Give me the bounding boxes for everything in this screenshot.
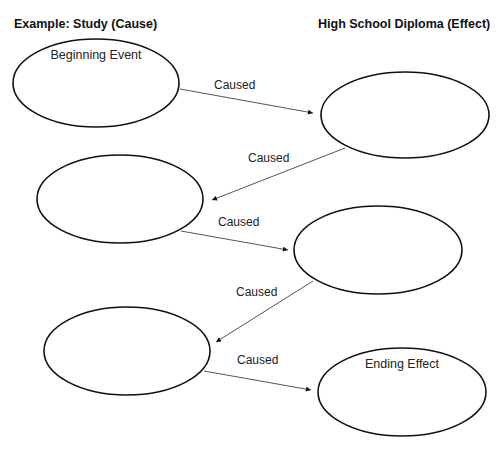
node-ellipse-4	[294, 206, 462, 294]
edge-label-5: Caused	[237, 353, 278, 367]
caused-arrow-5	[204, 371, 311, 390]
caused-arrow-1	[180, 89, 313, 113]
node-label-1: Beginning Event	[46, 48, 146, 62]
edge-label-1: Caused	[214, 78, 255, 92]
edge-label-3: Caused	[218, 215, 259, 229]
node-label-6: Ending Effect	[352, 357, 452, 371]
edge-label-4: Caused	[236, 285, 277, 299]
edge-label-2: Caused	[248, 151, 289, 165]
caused-arrow-3	[181, 231, 288, 250]
node-ellipse-3	[37, 155, 203, 243]
node-ellipse-5	[44, 307, 210, 395]
node-ellipse-2	[321, 72, 489, 158]
